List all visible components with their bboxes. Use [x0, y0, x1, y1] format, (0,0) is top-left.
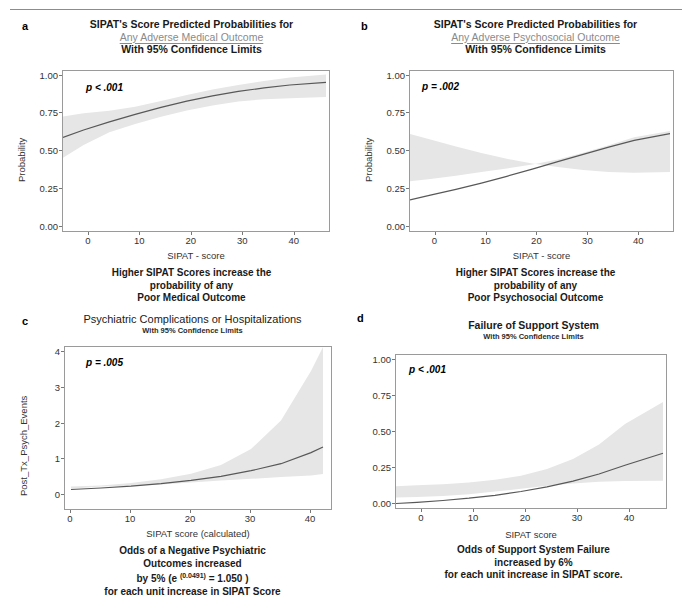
panel-c-caption-line3-post: = 1.050 )	[206, 573, 249, 584]
panel-d-xtick-1: 10	[468, 512, 479, 523]
panel-b-letter: b	[361, 20, 368, 32]
panel-c-frame	[64, 346, 332, 510]
panel-b-title-line3: With 95% Confidence Limits	[377, 43, 694, 56]
panel-a-svg	[63, 71, 330, 232]
panel-a-ylabel: Probability	[16, 138, 27, 182]
panel-c-letter: c	[22, 315, 28, 327]
panel-d-caption-line2: increased by 6%	[373, 557, 694, 570]
panel-c-xtick-4: 40	[305, 513, 316, 524]
panel-b-ytick-2: 0.50	[377, 145, 405, 156]
panel-d-xtick-3: 30	[572, 512, 583, 523]
panel-b-title-line1: SIPAT's Score Predicted Probabilities fo…	[377, 18, 694, 31]
panel-a-ytickmark	[59, 112, 62, 113]
panel-c-ytickmark	[61, 458, 64, 459]
panel-a-ytickmark	[59, 188, 62, 189]
panel-c-xtick-3: 30	[245, 513, 256, 524]
panel-a: a SIPAT's Score Predicted Probabilities …	[0, 14, 347, 306]
panel-a-title: SIPAT's Score Predicted Probabilities fo…	[0, 14, 347, 56]
panel-d-pvalue: p < .001	[409, 364, 446, 375]
panel-b-pvalue: p = .002	[422, 81, 459, 92]
panel-c-ytick-0: 0	[38, 489, 60, 500]
panel-c-ytickmark	[61, 423, 64, 424]
panel-c-ytickmark	[61, 494, 64, 495]
panel-b-xtick-3: 30	[582, 235, 593, 246]
panel-d-ytickmark	[392, 431, 395, 432]
panel-b-ytickmark	[406, 226, 409, 227]
panel-b-xlabel: SIPAT - score	[409, 250, 674, 261]
panel-b-caption: Higher SIPAT Scores increase the probabi…	[347, 267, 694, 305]
panel-b-plot: Probability 1.00 0.75 0.50 0.25 0.00 0	[409, 70, 674, 232]
panel-a-pvalue: p < .001	[86, 82, 123, 93]
panel-a-letter: a	[22, 20, 28, 32]
panel-c-title-line2: With 95% Confidence Limits	[38, 326, 347, 336]
panel-c: c Psychiatric Complications or Hospitali…	[0, 306, 347, 599]
panel-a-title-line1: SIPAT's Score Predicted Probabilities fo…	[36, 18, 347, 31]
panel-d-title-line2: With 95% Confidence Limits	[373, 332, 694, 342]
panel-a-xtick-0: 0	[85, 235, 90, 246]
panel-d-ytickmark	[392, 467, 395, 468]
panel-b-ytickmark	[406, 188, 409, 189]
panel-b-caption-line1: Higher SIPAT Scores increase the	[377, 267, 694, 280]
panel-d-frame	[395, 354, 667, 509]
panel-b-title: SIPAT's Score Predicted Probabilities fo…	[347, 14, 694, 56]
panel-b-xtick-0: 0	[432, 235, 437, 246]
panel-d-xtick-4: 40	[624, 512, 635, 523]
panel-b-ytick-1: 0.25	[377, 183, 405, 194]
panel-b-xtick-2: 20	[531, 235, 542, 246]
panel-b-ytickmark	[406, 112, 409, 113]
panel-a-xlabel: SIPAT - score	[62, 250, 330, 261]
panel-a-caption-line2: probability of any	[36, 280, 347, 293]
panel-a-ytickmark	[59, 226, 62, 227]
panel-c-ytickmark	[61, 351, 64, 352]
panel-d-ytickmark	[392, 503, 395, 504]
panel-c-caption-exponent: (0.0491)	[180, 572, 206, 579]
panel-d-xtick-0: 0	[418, 512, 423, 523]
panel-a-plot: Probability 1.00 0.75 0.50 0.25 0.00 0	[62, 70, 330, 232]
panel-a-ytick-0: 0.00	[30, 221, 58, 232]
panel-d-ytickmark	[392, 359, 395, 360]
panel-a-xtick-3: 30	[237, 235, 248, 246]
panel-b-title-line2: Any Adverse Psychosocial Outcome	[377, 31, 694, 44]
panel-b-ytickmark	[406, 150, 409, 151]
panel-a-ytick-2: 0.50	[30, 145, 58, 156]
panel-d-caption: Odds of Support System Failure increased…	[347, 544, 694, 582]
panel-c-plot: Post_Tx_Psych_Events 4 3 2 1 0 0 1	[64, 346, 332, 510]
panel-b-ytick-3: 0.75	[377, 107, 405, 118]
panel-d-caption-line1: Odds of Support System Failure	[373, 544, 694, 557]
panel-c-caption-line1: Odds of a Negative Psychiatric	[38, 545, 347, 558]
panel-b-ylabel: Probability	[363, 138, 374, 182]
panel-a-ytick-4: 1.00	[30, 70, 58, 81]
panel-d-letter: d	[357, 312, 364, 324]
panel-d-plot: 1.00 0.75 0.50 0.25 0.00 0 10 20 30 40 p…	[395, 354, 667, 509]
panel-a-ytickmark	[59, 150, 62, 151]
figure-panel-grid: a SIPAT's Score Predicted Probabilities …	[0, 14, 694, 599]
panel-a-frame	[62, 70, 330, 232]
panel-b-frame	[409, 70, 674, 232]
panel-d-title-line1: Failure of Support System	[373, 319, 694, 332]
panel-c-ytickmark	[61, 387, 64, 388]
panel-c-ci-band	[71, 347, 323, 489]
panel-d-ci-band	[396, 402, 663, 498]
panel-c-title-line1: Psychiatric Complications or Hospitaliza…	[38, 313, 347, 326]
panel-c-caption-line2: Outcomes increased	[38, 558, 347, 571]
panel-c-ytick-1: 1	[38, 453, 60, 464]
panel-a-title-line3: With 95% Confidence Limits	[36, 43, 347, 56]
panel-a-caption: Higher SIPAT Scores increase the probabi…	[0, 267, 347, 305]
panel-b-ytickmark	[406, 75, 409, 76]
panel-a-ytick-1: 0.25	[30, 183, 58, 194]
panel-d-ytick-4: 1.00	[363, 354, 391, 365]
panel-c-caption-line3-pre: by 5% (e	[137, 573, 180, 584]
panel-c-xtick-2: 20	[185, 513, 196, 524]
panel-d-svg	[396, 355, 667, 509]
panel-d-ytick-0: 0.00	[363, 498, 391, 509]
panel-d-ytickmark	[392, 395, 395, 396]
panel-d-xtick-2: 20	[520, 512, 531, 523]
panel-b-ytick-4: 1.00	[377, 70, 405, 81]
panel-c-ylabel: Post_Tx_Psych_Events	[18, 396, 29, 496]
panel-c-svg	[65, 347, 332, 510]
panel-d: d Failure of Support System With 95% Con…	[347, 306, 694, 599]
panel-c-title: Psychiatric Complications or Hospitaliza…	[0, 306, 347, 336]
panel-b-svg	[410, 71, 674, 232]
panel-c-ytick-4: 4	[38, 346, 60, 357]
panel-c-ytick-3: 3	[38, 381, 60, 392]
